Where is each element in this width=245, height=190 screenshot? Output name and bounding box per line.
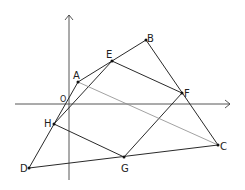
point-g	[123, 156, 126, 159]
label-d: D	[20, 163, 28, 174]
point-d	[28, 167, 31, 170]
origin-label: O	[60, 95, 66, 104]
label-f: F	[184, 88, 190, 99]
point-h	[53, 123, 56, 126]
label-e: E	[106, 49, 112, 60]
label-c: C	[220, 141, 227, 152]
geometry-diagram: O A B C D E F G H	[0, 0, 245, 190]
label-g: G	[121, 163, 129, 174]
coordinate-axes: O	[15, 15, 230, 180]
label-b: B	[147, 33, 154, 44]
label-a: A	[73, 70, 80, 81]
label-h: H	[44, 118, 52, 129]
